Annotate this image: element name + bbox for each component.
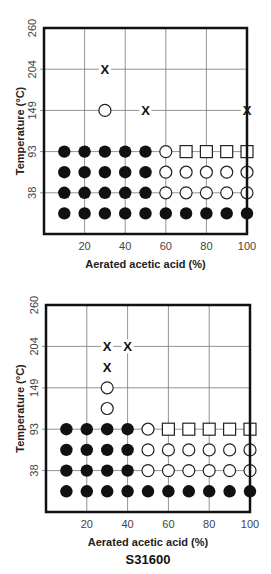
open-circle-marker — [180, 166, 192, 178]
x-tick-label: 100 — [241, 518, 259, 530]
x-tick-label: 60 — [162, 518, 174, 530]
filled-circle-marker — [101, 464, 113, 476]
data-points: XXX — [58, 62, 253, 220]
plot-frame — [44, 28, 247, 234]
open-circle-marker — [101, 403, 113, 415]
filled-circle-marker — [180, 207, 192, 219]
filled-circle-marker — [119, 166, 131, 178]
open-circle-marker — [203, 465, 215, 477]
x-tick-label: 20 — [81, 518, 93, 530]
open-circle-marker — [200, 187, 212, 199]
open-square-marker — [224, 423, 236, 435]
filled-circle-marker — [58, 145, 70, 157]
open-circle-marker — [99, 104, 111, 116]
filled-circle-marker — [121, 485, 133, 497]
filled-circle-marker — [101, 485, 113, 497]
open-circle-marker — [142, 444, 154, 456]
gridlines — [40, 28, 247, 234]
x-axis-label: Aerated acetic acid (%) — [85, 258, 206, 270]
open-circle-marker — [160, 187, 172, 199]
y-tick-label: 38 — [26, 187, 38, 199]
y-tick-label: 38 — [28, 464, 40, 476]
open-circle-marker — [101, 382, 113, 394]
filled-circle-marker — [58, 187, 70, 199]
open-circle-marker — [221, 187, 233, 199]
open-circle-marker — [160, 146, 172, 158]
filled-circle-marker — [101, 444, 113, 456]
open-circle-marker — [224, 465, 236, 477]
chart-s30400-plot: XXX204060801003893149204260Temperature (… — [0, 0, 271, 277]
open-circle-marker — [142, 423, 154, 435]
open-square-marker — [180, 146, 192, 158]
y-axis-ticks: 3893149204260 — [26, 19, 38, 199]
y-axis-label: Temperature (°C) — [14, 86, 26, 175]
filled-circle-marker — [121, 423, 133, 435]
filled-circle-marker — [78, 166, 90, 178]
open-square-marker — [162, 423, 174, 435]
filled-circle-marker — [60, 464, 72, 476]
filled-circle-marker — [139, 207, 151, 219]
x-tick-label: 100 — [238, 240, 256, 252]
y-tick-label: 93 — [26, 145, 38, 157]
open-circle-marker — [160, 166, 172, 178]
x-marker: X — [141, 103, 150, 118]
open-circle-marker — [203, 444, 215, 456]
filled-circle-marker — [81, 444, 93, 456]
open-circle-marker — [224, 444, 236, 456]
x-tick-label: 40 — [119, 240, 131, 252]
x-tick-label: 80 — [203, 518, 215, 530]
open-circle-marker — [142, 465, 154, 477]
x-tick-label: 20 — [78, 240, 90, 252]
chart-s31600-plot: XXX204060801003893149204260Temperature (… — [0, 277, 271, 574]
filled-circle-marker — [223, 485, 235, 497]
filled-circle-marker — [121, 444, 133, 456]
y-tick-label: 204 — [26, 60, 38, 78]
filled-circle-marker — [200, 207, 212, 219]
filled-circle-marker — [142, 485, 154, 497]
filled-circle-marker — [99, 166, 111, 178]
filled-circle-marker — [139, 187, 151, 199]
y-tick-label: 260 — [26, 19, 38, 37]
chart-s31600: XXX204060801003893149204260Temperature (… — [0, 277, 271, 574]
filled-circle-marker — [183, 485, 195, 497]
open-circle-marker — [221, 166, 233, 178]
y-axis-ticks: 3893149204260 — [28, 296, 40, 477]
open-circle-marker — [162, 465, 174, 477]
filled-circle-marker — [99, 187, 111, 199]
filled-circle-marker — [81, 464, 93, 476]
filled-circle-marker — [81, 423, 93, 435]
open-circle-marker — [183, 465, 195, 477]
filled-circle-marker — [60, 423, 72, 435]
y-tick-label: 204 — [28, 337, 40, 355]
filled-circle-marker — [119, 145, 131, 157]
filled-circle-marker — [162, 485, 174, 497]
x-axis-ticks: 20406080100 — [81, 518, 260, 530]
filled-circle-marker — [78, 145, 90, 157]
y-tick-label: 149 — [26, 101, 38, 119]
chart-title: S31600 — [126, 552, 171, 567]
filled-circle-marker — [121, 464, 133, 476]
x-marker: X — [123, 339, 132, 354]
x-tick-label: 80 — [200, 240, 212, 252]
open-circle-marker — [183, 444, 195, 456]
filled-circle-marker — [101, 423, 113, 435]
data-points: XXX — [60, 339, 256, 498]
x-tick-label: 60 — [160, 240, 172, 252]
filled-circle-marker — [99, 207, 111, 219]
filled-circle-marker — [139, 145, 151, 157]
x-axis-ticks: 20406080100 — [78, 240, 256, 252]
filled-circle-marker — [78, 207, 90, 219]
filled-circle-marker — [221, 207, 233, 219]
x-axis-label: Aerated acetic acid (%) — [88, 536, 209, 548]
y-tick-label: 93 — [28, 423, 40, 435]
chart-s30400: XXX204060801003893149204260Temperature (… — [0, 0, 271, 277]
y-axis-label: Temperature (°C) — [14, 364, 26, 453]
open-circle-marker — [180, 187, 192, 199]
y-tick-label: 260 — [28, 296, 40, 314]
filled-circle-marker — [139, 166, 151, 178]
open-circle-marker — [162, 444, 174, 456]
filled-circle-marker — [78, 187, 90, 199]
plot-frame — [46, 305, 250, 512]
filled-circle-marker — [119, 187, 131, 199]
filled-circle-marker — [60, 485, 72, 497]
